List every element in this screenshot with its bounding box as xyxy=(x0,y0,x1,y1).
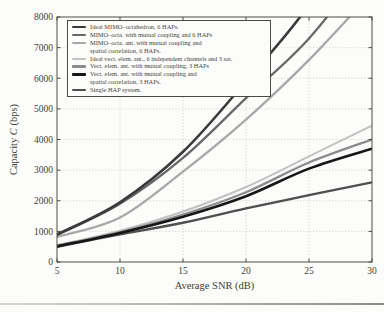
y-tick-label: 0 xyxy=(48,257,53,267)
legend-row: Vect. elem. ant. with mutual coupling, 3… xyxy=(72,62,267,70)
series-curve-4 xyxy=(57,126,372,246)
legend-swatch-line xyxy=(72,73,86,76)
y-tick-label: 4000 xyxy=(34,135,53,145)
legend-entry-label: Ideal MIMO–octahedron, 6 HAPs. xyxy=(90,23,179,31)
legend-row: MIMO–octa. with mutual coupling and 6 HA… xyxy=(72,31,267,39)
legend-entry-label: spatial correlation, 3 HAPs. xyxy=(90,78,161,86)
y-tick-label: 3000 xyxy=(34,165,53,175)
legend-row: Vect. elem. ant. with mutual coupling an… xyxy=(72,70,267,78)
legend-swatch-line xyxy=(72,26,86,29)
x-tick-label: 25 xyxy=(304,266,314,276)
legend-swatch-line xyxy=(72,65,86,67)
legend-entry-label: Vect. elem. ant. with mutual coupling an… xyxy=(90,70,197,78)
y-tick-label: 7000 xyxy=(34,43,53,53)
x-tick-label: 20 xyxy=(241,266,251,276)
legend-row: Ideal vect. elem. ant., 6 independent ch… xyxy=(72,55,267,63)
legend-row: Ideal MIMO–octahedron, 6 HAPs. xyxy=(72,23,267,31)
y-tick-label: 8000 xyxy=(34,12,53,22)
legend-swatch-line xyxy=(72,42,86,44)
legend-swatch-line xyxy=(72,34,86,36)
legend-entry-label: MIMO–octa. ant. with mutual coupling and xyxy=(90,39,202,47)
legend-row: spatial correlation, 3 HAPs. xyxy=(72,78,267,86)
legend-entry-label: Vect. elem. ant. with mutual coupling, 3… xyxy=(90,62,209,70)
y-tick-label: 5000 xyxy=(34,104,53,114)
x-axis-label: Average SNR (dB) xyxy=(175,280,255,292)
legend-row: MIMO–octa. ant. with mutual coupling and xyxy=(72,39,267,47)
chart-legend: Ideal MIMO–octahedron, 6 HAPs.MIMO–octa.… xyxy=(67,20,271,97)
legend-entry-label: MIMO–octa. with mutual coupling and 6 HA… xyxy=(90,31,212,39)
y-tick-label: 6000 xyxy=(34,74,53,84)
y-tick-label: 1000 xyxy=(34,227,53,237)
legend-entry-label: spatial correlation, 6 HAPs. xyxy=(90,47,161,55)
figure-page: 5101520253001000200030004000500060007000… xyxy=(0,0,384,312)
x-tick-label: 5 xyxy=(55,266,60,276)
legend-row: spatial correlation, 6 HAPs. xyxy=(72,47,267,55)
y-axis-label: Capacity C (bps) xyxy=(8,103,20,175)
legend-entry-label: Single HAP system. xyxy=(90,86,141,94)
legend-row: Single HAP system. xyxy=(72,86,267,94)
y-axis-label-pre: Capacity xyxy=(8,135,19,175)
y-tick-label: 2000 xyxy=(34,196,53,206)
page-bottom-rule xyxy=(0,303,384,305)
legend-swatch-line xyxy=(72,89,86,91)
y-axis-label-post: (bps) xyxy=(8,103,20,128)
legend-entry-label: Ideal vect. elem. ant., 6 independent ch… xyxy=(90,55,232,63)
x-tick-label: 10 xyxy=(115,266,125,276)
x-tick-label: 15 xyxy=(178,266,188,276)
legend-swatch-line xyxy=(72,58,86,60)
x-tick-label: 30 xyxy=(367,266,377,276)
